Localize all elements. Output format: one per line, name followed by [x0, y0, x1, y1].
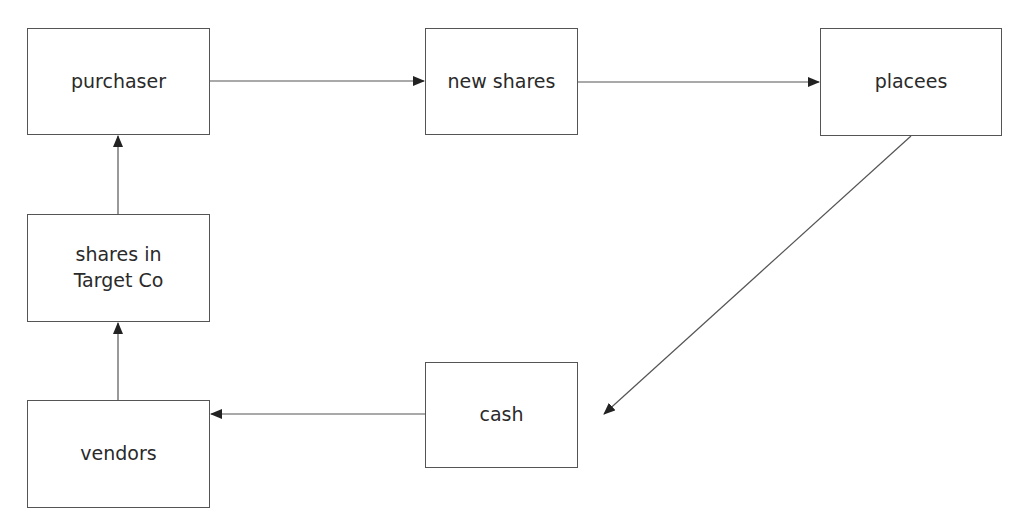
node-label: vendors — [80, 441, 156, 467]
node-new-shares: new shares — [425, 28, 578, 135]
node-label: placees — [875, 69, 948, 95]
node-shares-in-target-co: shares in Target Co — [27, 214, 210, 322]
edge-placees-to-cash — [604, 136, 911, 414]
node-cash: cash — [425, 362, 578, 468]
node-vendors: vendors — [27, 400, 210, 508]
node-purchaser: purchaser — [27, 28, 210, 135]
node-label: purchaser — [71, 69, 166, 95]
node-label: shares in Target Co — [74, 242, 164, 293]
node-placees: placees — [820, 28, 1002, 136]
node-label: new shares — [448, 69, 556, 95]
node-label: cash — [479, 402, 523, 428]
